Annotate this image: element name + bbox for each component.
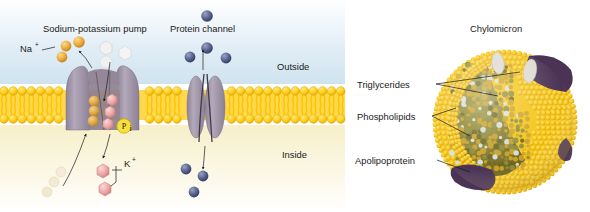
inside-label: Inside: [282, 149, 307, 160]
svg-text:K: K: [124, 158, 131, 169]
chylomicron-panel: Chylomicron Triglycerides Phospholipids …: [355, 23, 578, 195]
apolipoprotein-label: Apolipoprotein: [355, 155, 415, 166]
intracellular-space: [0, 125, 345, 212]
svg-text:Na: Na: [20, 43, 33, 54]
pump-title: Sodium-potassium pump: [43, 23, 147, 34]
bound-sodium-ions: [88, 96, 100, 127]
figure-canvas: P i: [0, 0, 590, 212]
svg-text:+: +: [35, 41, 39, 48]
triglycerides-label: Triglycerides: [357, 79, 410, 90]
channel-title: Protein channel: [170, 23, 235, 34]
svg-text:+: +: [132, 156, 136, 163]
membrane-panel: P i: [0, 0, 345, 212]
lipid-bilayer: [0, 87, 345, 124]
phosphate-label: P: [122, 122, 127, 131]
biology-figure: P i: [0, 0, 590, 212]
chylomicron-title: Chylomicron: [470, 23, 522, 34]
outside-label: Outside: [277, 61, 309, 72]
phospholipids-label: Phospholipids: [357, 111, 416, 122]
